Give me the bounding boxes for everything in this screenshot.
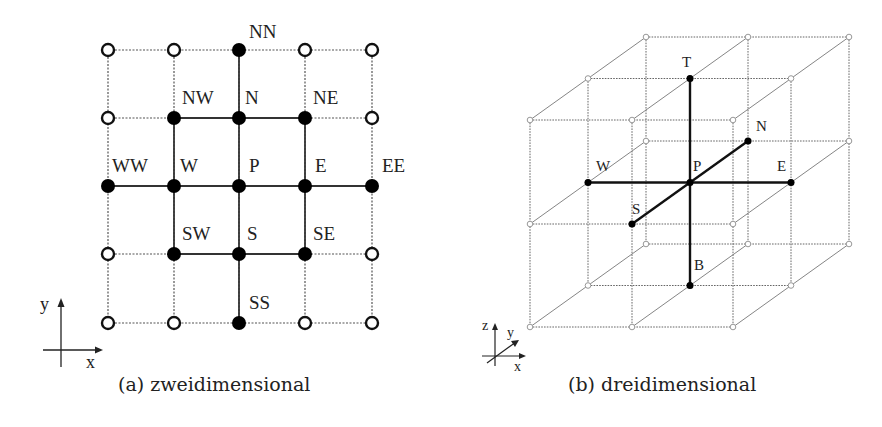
node-e <box>298 179 312 193</box>
label-nw: NW <box>182 87 214 108</box>
open-node <box>730 221 736 227</box>
open-node <box>585 76 591 82</box>
label-ss: SS <box>249 292 270 313</box>
open-node <box>102 112 114 124</box>
open-node <box>629 117 635 123</box>
label-b: B <box>694 257 704 273</box>
axes-3d-icon: xyz <box>482 318 526 374</box>
label-w: W <box>596 158 611 174</box>
label-p: P <box>693 158 701 174</box>
open-node <box>366 44 378 56</box>
open-node <box>366 317 378 329</box>
open-node <box>102 317 114 329</box>
open-node <box>168 317 180 329</box>
label-s: S <box>632 201 640 217</box>
label-e: E <box>777 158 786 174</box>
caption-3d: (b) dreidimensional <box>568 373 756 395</box>
label-p: P <box>249 155 260 176</box>
open-node <box>788 283 794 289</box>
label-ww: WW <box>112 155 148 176</box>
node-nn <box>232 43 246 57</box>
y-axis-label: y <box>40 294 49 314</box>
node-e <box>788 179 795 186</box>
y-axis-arrow <box>58 298 65 307</box>
open-node <box>366 248 378 260</box>
label-nn: NN <box>249 21 277 42</box>
figure-2d-grid: NNNWNNEWWWPEEESWSSESS <box>101 21 405 330</box>
open-node <box>527 221 533 227</box>
open-node <box>527 324 533 330</box>
y-axis-arrow <box>511 340 519 347</box>
open-node <box>102 248 114 260</box>
label-ne: NE <box>313 87 338 108</box>
open-node <box>629 324 635 330</box>
node-ee <box>365 179 379 193</box>
label-t: T <box>682 54 691 70</box>
open-node <box>846 241 852 247</box>
open-node <box>788 76 794 82</box>
open-node <box>643 138 649 144</box>
node-ww <box>101 179 115 193</box>
label-n: N <box>756 118 767 134</box>
stencil-diagram: NNNWNNEWWWPEEESWSSESS WENSTBP xy xyz <box>0 0 882 427</box>
node-w <box>585 179 592 186</box>
open-node <box>745 34 751 40</box>
node-b <box>687 282 694 289</box>
x-axis-label: x <box>514 359 521 374</box>
label-se: SE <box>313 223 335 244</box>
label-e: E <box>315 155 327 176</box>
label-n: N <box>245 87 259 108</box>
open-node <box>643 241 649 247</box>
label-w: W <box>180 155 198 176</box>
label-s: S <box>247 223 258 244</box>
node-ss <box>232 316 246 330</box>
axes-2d-icon: xy <box>40 294 103 372</box>
open-node <box>745 241 751 247</box>
open-node <box>846 138 852 144</box>
node-sw <box>167 247 181 261</box>
node-w <box>167 179 181 193</box>
z-axis-arrow <box>492 323 498 330</box>
caption-2d: (a) zweidimensional <box>118 373 310 395</box>
node-s <box>232 247 246 261</box>
open-node <box>527 117 533 123</box>
node-p <box>687 179 694 186</box>
y-axis-label: y <box>507 325 514 340</box>
node-p <box>232 179 246 193</box>
node-n <box>745 138 752 145</box>
open-node <box>366 112 378 124</box>
open-node <box>102 44 114 56</box>
x-axis-label: x <box>86 352 95 372</box>
open-node <box>643 34 649 40</box>
label-sw: SW <box>182 223 211 244</box>
open-node <box>846 34 852 40</box>
figure-3d-grid: WENSTBP <box>527 34 852 330</box>
node-s <box>629 221 636 228</box>
open-node <box>730 117 736 123</box>
y-axis-line <box>487 342 516 363</box>
node-se <box>298 247 312 261</box>
x-axis-arrow <box>95 347 103 354</box>
node-nw <box>167 111 181 125</box>
node-ne <box>298 111 312 125</box>
node-t <box>687 75 694 82</box>
open-node <box>585 283 591 289</box>
open-node <box>730 324 736 330</box>
label-ee: EE <box>382 155 405 176</box>
z-axis-label: z <box>482 318 488 333</box>
open-node <box>168 44 180 56</box>
open-node <box>299 317 311 329</box>
node-n <box>232 111 246 125</box>
open-node <box>299 44 311 56</box>
